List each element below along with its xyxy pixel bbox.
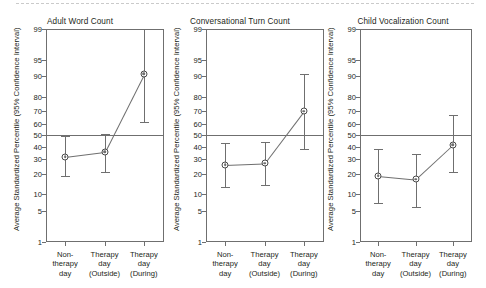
y-axis-tick — [356, 124, 360, 125]
y-axis-tick-label: 80 — [18, 92, 42, 101]
error-bar-cap-upper — [261, 142, 270, 143]
error-bar-cap-upper — [101, 134, 110, 135]
y-axis-tick-label: 90 — [178, 72, 202, 81]
x-axis-label-line: day — [89, 259, 120, 268]
reference-line-50 — [206, 135, 324, 136]
error-bar-cap-lower — [412, 207, 421, 208]
y-axis-tick — [42, 97, 46, 98]
x-axis-label-line: Non- — [52, 250, 77, 259]
data-point-marker — [261, 160, 268, 167]
y-axis-tick — [42, 147, 46, 148]
x-axis-label-line: therapy — [52, 259, 77, 268]
y-axis-tick-label: 80 — [332, 92, 356, 101]
x-axis-label-line: Therapy — [439, 250, 467, 259]
y-axis-tick — [202, 124, 206, 125]
y-axis-tick-label: 20 — [178, 169, 202, 178]
error-bar-cap-lower — [449, 172, 458, 173]
y-axis-tick — [202, 60, 206, 61]
x-axis-tick — [416, 242, 417, 246]
y-axis-tick-label: 70 — [178, 107, 202, 116]
y-axis-tick-label: 60 — [332, 119, 356, 128]
x-axis-label-line: Therapy — [400, 250, 431, 259]
y-axis-tick-label: 5 — [332, 206, 356, 215]
y-axis-tick — [42, 124, 46, 125]
x-axis-tick — [453, 242, 454, 246]
data-point-marker — [222, 161, 229, 168]
y-axis-tick-label: 30 — [332, 155, 356, 164]
x-axis-label-line: Therapy — [89, 250, 120, 259]
x-axis-label-line: (During) — [290, 269, 318, 278]
y-axis-tick-label: 10 — [332, 190, 356, 199]
x-axis-label-line: day — [52, 269, 77, 278]
x-axis-label-line: (Outside) — [400, 269, 431, 278]
y-axis-tick-label: 70 — [18, 107, 42, 116]
x-axis-label-line: day — [365, 269, 390, 278]
y-axis-tick — [42, 194, 46, 195]
chart-panel: Conversational Turn CountAverage Standar… — [160, 0, 320, 288]
x-axis-tick — [105, 242, 106, 246]
error-bar-cap-upper — [449, 115, 458, 116]
error-bar-cap-upper — [374, 149, 383, 150]
y-axis-tick-label: 10 — [18, 190, 42, 199]
data-point-marker — [449, 141, 456, 148]
y-axis-tick-label: 30 — [18, 155, 42, 164]
error-bar-cap-lower — [221, 187, 230, 188]
data-point-marker — [140, 70, 147, 77]
x-axis-tick-label: Therapyday(During) — [439, 250, 467, 278]
error-bar-cap-lower — [61, 176, 70, 177]
data-point-marker — [62, 153, 69, 160]
x-axis-label-line: Non- — [365, 250, 390, 259]
y-axis-tick-label: 40 — [18, 142, 42, 151]
x-axis-tick-label: Therapyday(During) — [290, 250, 318, 278]
y-axis-tick — [42, 111, 46, 112]
x-axis-tick — [265, 242, 266, 246]
y-axis-tick-label: 95 — [178, 55, 202, 64]
x-axis-tick-label: Non-therapyday — [52, 250, 77, 278]
x-axis-tick-label: Therapyday(Outside) — [249, 250, 280, 278]
y-axis-tick — [42, 60, 46, 61]
x-axis-label-line: (Outside) — [89, 269, 120, 278]
chart-panel: Adult Word CountAverage Standardized Per… — [0, 0, 160, 288]
data-point-marker — [412, 176, 419, 183]
y-axis-tick-label: 30 — [178, 155, 202, 164]
x-axis-tick — [65, 242, 66, 246]
y-axis-tick — [42, 174, 46, 175]
y-axis-tick — [202, 76, 206, 77]
y-axis-tick-label: 1 — [332, 238, 356, 247]
y-axis-tick-label: 5 — [18, 206, 42, 215]
y-axis-tick — [42, 159, 46, 160]
y-axis-tick — [202, 242, 206, 243]
y-axis-tick-label: 99 — [178, 24, 202, 33]
x-axis-tick-label: Non-therapyday — [212, 250, 237, 278]
x-axis-tick-label: Therapyday(During) — [130, 250, 158, 278]
y-axis-tick — [356, 111, 360, 112]
y-axis-tick — [42, 211, 46, 212]
y-axis-tick-label: 10 — [178, 190, 202, 199]
y-axis-tick-label: 50 — [18, 131, 42, 140]
y-axis-tick-label: 40 — [332, 142, 356, 151]
y-axis-tick-label: 20 — [18, 169, 42, 178]
x-axis-tick — [378, 242, 379, 246]
y-axis-tick-label: 1 — [18, 238, 42, 247]
y-axis-tick — [202, 97, 206, 98]
y-axis-tick — [202, 211, 206, 212]
y-axis-tick-label: 90 — [332, 72, 356, 81]
y-axis-tick — [42, 242, 46, 243]
data-point-marker — [375, 172, 382, 179]
error-bar-cap-upper — [61, 136, 70, 137]
x-axis-tick — [144, 242, 145, 246]
x-axis-label-line: therapy — [212, 259, 237, 268]
y-axis-tick — [356, 147, 360, 148]
y-axis-tick — [356, 76, 360, 77]
y-axis-tick-label: 80 — [178, 92, 202, 101]
x-axis-label-line: therapy — [365, 259, 390, 268]
x-axis-tick-label: Non-therapyday — [365, 250, 390, 278]
x-axis-label-line: Therapy — [249, 250, 280, 259]
y-axis-tick-label: 60 — [18, 119, 42, 128]
y-axis-tick — [356, 97, 360, 98]
y-axis-tick — [356, 174, 360, 175]
y-axis-tick-label: 50 — [332, 131, 356, 140]
chart-panel: Child Vocalization CountAverage Standard… — [320, 0, 486, 288]
y-axis-tick-label: 99 — [332, 24, 356, 33]
y-axis-tick-label: 95 — [18, 55, 42, 64]
